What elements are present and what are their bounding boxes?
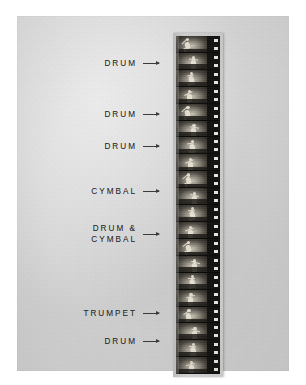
sprocket-hole bbox=[214, 115, 218, 118]
film-frame bbox=[176, 70, 220, 87]
film-frame bbox=[176, 222, 220, 239]
sprocket-hole-column bbox=[207, 222, 220, 238]
sprocket-hole-column bbox=[207, 307, 220, 323]
film-edge bbox=[176, 154, 178, 170]
drum-kit-shape bbox=[176, 267, 207, 272]
sprocket-hole bbox=[214, 259, 218, 262]
sprocket-hole-column bbox=[207, 137, 220, 153]
drum-kit-shape bbox=[176, 132, 207, 137]
film-frame bbox=[176, 239, 220, 256]
sprocket-hole bbox=[214, 124, 218, 127]
sprocket-hole bbox=[214, 157, 218, 160]
sprocket-hole-column bbox=[207, 188, 220, 204]
film-edge bbox=[176, 290, 178, 306]
film-edge bbox=[176, 171, 178, 187]
film-frame bbox=[176, 137, 220, 154]
sprocket-hole bbox=[214, 250, 218, 253]
sprocket-hole bbox=[214, 326, 218, 329]
photograph: DRUMDRUMDRUMCYMBALDRUM &CYMBALTRUMPETDRU… bbox=[17, 16, 289, 371]
film-frame-image bbox=[176, 53, 207, 69]
annotation-label: TRUMPET bbox=[83, 308, 137, 319]
film-frame bbox=[176, 87, 220, 104]
film-frame-image bbox=[176, 121, 207, 137]
sprocket-hole bbox=[214, 360, 218, 363]
film-frame bbox=[176, 171, 220, 188]
film-frame-image bbox=[176, 188, 207, 204]
annotation-label: DRUM bbox=[104, 336, 137, 347]
film-frame-image bbox=[176, 256, 207, 272]
film-frame-image bbox=[176, 323, 207, 339]
film-frame-image bbox=[176, 137, 207, 153]
leader-arrow bbox=[143, 114, 159, 115]
film-frame bbox=[176, 256, 220, 273]
film-edge bbox=[176, 222, 178, 238]
film-frame bbox=[176, 290, 220, 307]
drum-kit-shape bbox=[176, 284, 207, 288]
sprocket-hole-column bbox=[207, 53, 220, 69]
annotation-label: DRUM bbox=[104, 141, 137, 152]
sprocket-hole bbox=[214, 148, 218, 151]
figure-page: DRUMDRUMDRUMCYMBALDRUM &CYMBALTRUMPETDRU… bbox=[0, 0, 306, 385]
film-frame-image bbox=[176, 171, 207, 187]
film-frame bbox=[176, 273, 220, 290]
film-frame-image bbox=[176, 290, 207, 306]
drum-kit-shape bbox=[176, 99, 207, 103]
sprocket-hole-column bbox=[207, 205, 220, 221]
sprocket-hole bbox=[214, 276, 218, 279]
annotation-label: DRUM &CYMBAL bbox=[91, 223, 137, 245]
sprocket-hole bbox=[214, 208, 218, 211]
film-frame bbox=[176, 307, 220, 324]
annotation-label-line: DRUM & bbox=[91, 223, 137, 234]
drum-kit-shape bbox=[176, 369, 207, 373]
annotation-label: CYMBAL bbox=[91, 186, 137, 197]
film-strip bbox=[176, 36, 220, 374]
film-edge bbox=[176, 87, 178, 103]
film-frame bbox=[176, 340, 220, 357]
sprocket-hole bbox=[214, 225, 218, 228]
film-frame-image bbox=[176, 222, 207, 238]
photo-vignette bbox=[17, 16, 289, 371]
sprocket-hole-column bbox=[207, 171, 220, 187]
drum-kit-shape bbox=[176, 199, 207, 204]
sprocket-hole bbox=[214, 107, 218, 110]
sprocket-hole bbox=[214, 182, 218, 185]
film-edge bbox=[176, 188, 178, 204]
film-edge bbox=[176, 70, 178, 86]
sprocket-hole bbox=[214, 39, 218, 42]
film-edge bbox=[176, 36, 178, 52]
sprocket-hole-column bbox=[207, 357, 220, 373]
annotation-label: DRUM bbox=[104, 58, 137, 69]
annotation-label-line: DRUM bbox=[104, 141, 137, 152]
annotation-label-line: TRUMPET bbox=[83, 308, 137, 319]
film-frame-image bbox=[176, 70, 207, 86]
sprocket-hole bbox=[214, 165, 218, 168]
sprocket-hole bbox=[214, 47, 218, 50]
film-frame-image bbox=[176, 273, 207, 289]
drum-kit-shape bbox=[176, 184, 207, 187]
figure-arm bbox=[189, 345, 196, 347]
film-edge bbox=[176, 205, 178, 221]
film-frame bbox=[176, 323, 220, 340]
drum-kit-shape bbox=[176, 82, 207, 86]
sprocket-hole-column bbox=[207, 70, 220, 86]
leader-arrow bbox=[143, 146, 159, 147]
drum-kit-shape bbox=[176, 252, 207, 255]
sprocket-hole-column bbox=[207, 239, 220, 255]
sprocket-hole-column bbox=[207, 36, 220, 52]
film-frame-image bbox=[176, 357, 207, 373]
film-frame-image bbox=[176, 239, 207, 255]
sprocket-hole-column bbox=[207, 273, 220, 289]
sprocket-hole bbox=[214, 64, 218, 67]
film-edge bbox=[176, 121, 178, 137]
film-edge bbox=[176, 307, 178, 323]
drum-kit-shape bbox=[176, 302, 207, 306]
film-edge bbox=[176, 104, 178, 120]
sprocket-hole bbox=[214, 140, 218, 143]
film-edge bbox=[176, 137, 178, 153]
sprocket-hole-column bbox=[207, 154, 220, 170]
film-frame bbox=[176, 121, 220, 138]
leader-arrow bbox=[143, 341, 159, 342]
sprocket-hole bbox=[214, 98, 218, 101]
film-frame bbox=[176, 188, 220, 205]
film-frame-image bbox=[176, 340, 207, 356]
